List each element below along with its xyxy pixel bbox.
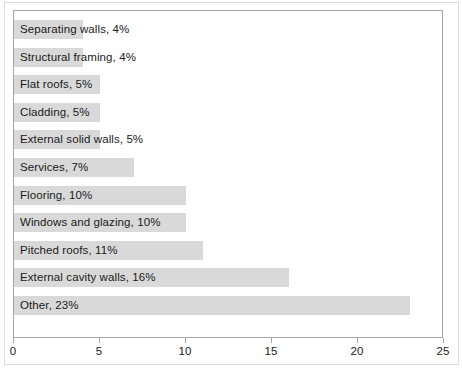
x-axis-tick-label: 10 (179, 345, 192, 357)
x-axis-tick-mark (357, 338, 358, 343)
x-axis-tick-mark (443, 338, 444, 343)
bar-data-label: Flat roofs, 5% (20, 75, 92, 94)
bar-data-label: Windows and glazing, 10% (20, 213, 160, 232)
bars-layer: Separating walls, 4%Structural framing, … (14, 11, 442, 337)
bar-data-label: Services, 7% (20, 158, 88, 177)
bar-data-label: Separating walls, 4% (20, 20, 129, 39)
bar-data-label: Structural framing, 4% (20, 48, 136, 67)
x-axis-tick-label: 15 (265, 345, 278, 357)
x-axis-tick-mark (13, 338, 14, 343)
x-axis-tick-label: 25 (437, 345, 450, 357)
x-axis-tick-label: 0 (10, 345, 16, 357)
x-axis-tick-mark (185, 338, 186, 343)
plot-area: Separating walls, 4%Structural framing, … (13, 10, 443, 338)
x-axis-tick-label: 5 (96, 345, 102, 357)
bar-data-label: Other, 23% (20, 296, 79, 315)
bar-data-label: External solid walls, 5% (20, 130, 143, 149)
x-axis-tick-mark (99, 338, 100, 343)
x-axis-tick-mark (271, 338, 272, 343)
bar-data-label: Cladding, 5% (20, 103, 90, 122)
x-axis-tick-label: 20 (351, 345, 364, 357)
bar-chart-figure: Separating walls, 4%Structural framing, … (0, 0, 462, 380)
bar-data-label: External cavity walls, 16% (20, 268, 156, 287)
bar-data-label: Pitched roofs, 11% (20, 241, 117, 260)
x-axis: 0510152025 (13, 338, 443, 364)
bar-data-label: Flooring, 10% (20, 186, 92, 205)
